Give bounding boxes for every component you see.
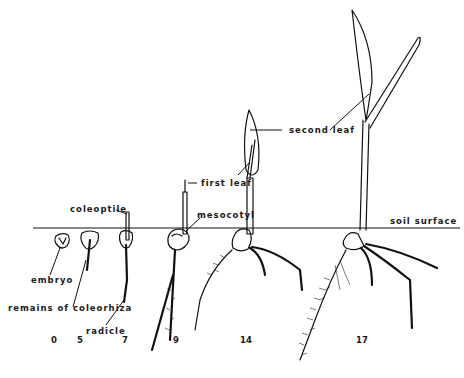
seedling-diagram: coleoptile embryo remains of coleorhiza … xyxy=(0,0,464,378)
seed-day-0 xyxy=(55,234,69,248)
diagram-drawing xyxy=(0,0,464,378)
label-mesocotyl: mesocotyl xyxy=(197,211,255,220)
stage-day-14: 14 xyxy=(240,336,252,345)
seed-day-7 xyxy=(120,212,133,302)
stage-day-0: 0 xyxy=(51,336,57,345)
seedling-day-14 xyxy=(195,110,302,330)
label-coleoptile: coleoptile xyxy=(70,205,127,214)
stage-day-9: 9 xyxy=(173,336,179,345)
seed-day-5 xyxy=(81,231,99,270)
label-first-leaf: first leaf xyxy=(201,179,252,188)
label-soil-surface: soil surface xyxy=(390,217,457,226)
stage-day-5: 5 xyxy=(77,336,83,345)
label-embryo: embryo xyxy=(31,276,73,285)
label-remains-of-coleorhiza: remains of coleorhiza xyxy=(8,304,132,313)
seedling-day-17 xyxy=(299,10,437,360)
label-second-leaf: second leaf xyxy=(289,126,355,135)
stage-day-7: 7 xyxy=(122,336,128,345)
stage-day-17: 17 xyxy=(356,336,368,345)
label-radicle: radicle xyxy=(86,327,126,336)
seedling-day-9 xyxy=(152,180,189,350)
